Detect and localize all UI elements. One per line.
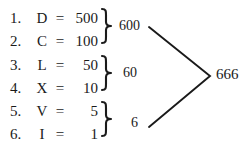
row-value: 1	[62, 123, 98, 146]
row-symbol: C	[34, 30, 50, 53]
row-index: 3.	[10, 54, 30, 77]
row-symbol: L	[34, 54, 50, 77]
row-index: 4.	[10, 77, 30, 100]
row-index: 1.	[10, 7, 30, 30]
grand-total: 666	[216, 66, 239, 83]
group-sum-600: 600	[119, 18, 140, 34]
row-value: 100	[62, 30, 98, 53]
row-index: 6.	[10, 123, 30, 146]
group-sum-60: 60	[123, 65, 137, 81]
row-symbol: I	[34, 123, 50, 146]
right-curly-brace-icon	[100, 8, 116, 44]
row-value: 10	[62, 77, 98, 100]
roman-numeral-diagram: 1. D = 500 2. C = 100 3. L = 50 4. X = 1…	[0, 0, 248, 154]
row-index: 5.	[10, 100, 30, 123]
row-value: 500	[62, 7, 98, 30]
row-value: 5	[62, 100, 98, 123]
right-curly-brace-icon	[100, 55, 116, 91]
group-sum-6: 6	[131, 115, 138, 131]
right-curly-brace-icon	[100, 101, 116, 137]
row-symbol: X	[34, 77, 50, 100]
row-symbol: D	[34, 7, 50, 30]
row-index: 2.	[10, 30, 30, 53]
row-symbol: V	[34, 100, 50, 123]
row-value: 50	[62, 54, 98, 77]
